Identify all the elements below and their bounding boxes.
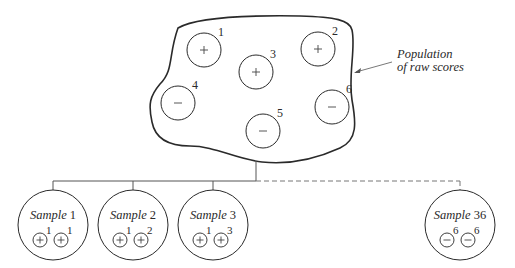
population-score-2: 2 <box>301 24 338 66</box>
sample-score-number: 1 <box>46 224 52 236</box>
sample-score-number: 3 <box>227 224 233 236</box>
sampling-diagram: 123456 Sample 111Sample 212Sample 313Sam… <box>0 0 515 268</box>
score-number: 2 <box>332 24 338 38</box>
sample-3: Sample 313 <box>178 181 248 260</box>
sample-circle <box>425 190 495 260</box>
sample-circle <box>98 190 168 260</box>
sample-1: Sample 111 <box>18 181 88 260</box>
sample-score-number: 1 <box>206 224 212 236</box>
sample-score-number: 1 <box>126 224 132 236</box>
sample-score-number: 6 <box>453 224 459 236</box>
population-blob <box>150 16 355 163</box>
sample-36: Sample 3666 <box>425 181 495 260</box>
population-label-line2: of raw scores <box>397 61 464 74</box>
score-number: 5 <box>277 106 283 120</box>
score-number: 6 <box>346 82 352 96</box>
score-number: 3 <box>270 47 276 61</box>
sample-score-number: 2 <box>147 224 153 236</box>
sample-label: Sample 2 <box>110 208 156 222</box>
sample-circle <box>18 190 88 260</box>
population-score-6: 6 <box>315 82 352 124</box>
sample-circle <box>178 190 248 260</box>
sample-label: Sample 3 <box>190 208 236 222</box>
population-label: Population of raw scores <box>397 48 464 74</box>
population-score-3: 3 <box>239 47 276 89</box>
score-number: 4 <box>192 78 198 92</box>
population-pointer-line <box>356 62 392 72</box>
arrowhead-icon <box>354 68 361 73</box>
population-score-4: 4 <box>161 78 198 120</box>
sample-score-number: 6 <box>474 224 480 236</box>
score-number: 1 <box>218 25 224 39</box>
population-score-5: 5 <box>246 106 283 148</box>
sample-score-number: 1 <box>67 224 73 236</box>
sample-label: Sample 36 <box>434 208 486 222</box>
sample-label: Sample 1 <box>30 208 76 222</box>
population-score-1: 1 <box>187 25 224 67</box>
sample-2: Sample 212 <box>98 181 168 260</box>
